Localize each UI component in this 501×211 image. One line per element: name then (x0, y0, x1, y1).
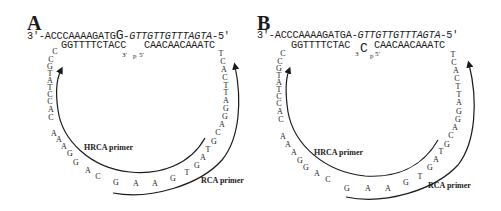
nucleotide: G (67, 150, 73, 158)
nucleotide: A (365, 185, 371, 193)
nucleotide: G (455, 116, 461, 124)
nucleotide: T (457, 91, 462, 99)
nucleotide: G (113, 179, 119, 187)
nucleotide: A (133, 180, 139, 188)
nucleotide: G (403, 179, 409, 187)
nucleotide: T (219, 50, 224, 58)
panel-b: B 3′-ACCCAAAAGATGA-GTTGTTGTTTAGTA-5′ GGT… (250, 0, 500, 211)
nucleotide: A (152, 180, 158, 188)
nucleotide: C (454, 75, 459, 83)
nucleotide: A (291, 149, 297, 157)
nucleotide: A (223, 97, 229, 105)
nucleotide: A (221, 66, 227, 74)
nucleotide: A (314, 170, 320, 178)
nucleotide: T (418, 173, 423, 181)
hrca-primer-label: HRCA primer (314, 149, 363, 157)
nucleotide: A (453, 67, 459, 75)
nucleotide: G (297, 157, 303, 165)
nucleotide: G (194, 162, 200, 170)
nucleotide: A (61, 143, 67, 151)
nucleotide: T (224, 89, 229, 97)
nucleotide: C (48, 114, 53, 122)
nucleotide: C (215, 129, 220, 137)
nucleotide: G (223, 105, 229, 113)
nucleotide: A (456, 99, 462, 107)
nucleotide: T (185, 169, 190, 177)
hrca-primer-label: HRCA primer (84, 144, 133, 152)
nucleotide: G (344, 185, 350, 193)
nucleotide: A (433, 156, 439, 164)
nucleotide: T (206, 146, 211, 154)
nucleotide: A (219, 121, 225, 129)
nucleotide: C (220, 58, 225, 66)
nucleotide: T (456, 83, 461, 91)
arc-arrows (250, 0, 500, 211)
nucleotide: C (325, 176, 330, 184)
nucleotide: C (278, 116, 283, 124)
nucleotide: G (222, 113, 228, 121)
nucleotide: G (170, 175, 176, 183)
nucleotide: G (303, 164, 309, 172)
panel-a: A 3′-ACCCAAAAGATGG-GTTGTTGTTTAGTA-5′ GGT… (0, 0, 250, 211)
nucleotide: T (451, 51, 456, 59)
nucleotide: T (224, 82, 229, 90)
nucleotide: G (456, 108, 462, 116)
nucleotide: G (444, 141, 450, 149)
nucleotide: C (448, 132, 453, 140)
nucleotide: G (211, 138, 217, 146)
nucleotide: C (222, 74, 227, 82)
nucleotide: A (200, 154, 206, 162)
nucleotide: A (85, 167, 91, 175)
nucleotide: C (95, 173, 100, 181)
nucleotide: A (385, 185, 391, 193)
nucleotide: T (439, 148, 444, 156)
nucleotide: C (451, 59, 456, 67)
nucleotide: A (452, 124, 458, 132)
rca-primer-label: RCA primer (201, 177, 244, 185)
rca-primer-label: RCA primer (428, 182, 471, 190)
nucleotide: G (427, 164, 433, 172)
hrca-primer-arrow (286, 70, 438, 176)
nucleotide: A (285, 141, 291, 149)
nucleotide: G (73, 159, 79, 167)
